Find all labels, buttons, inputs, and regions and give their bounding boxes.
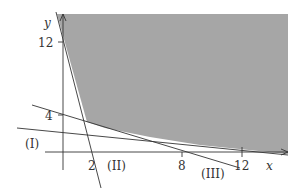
x-tick-label-8: 8 <box>178 159 186 173</box>
x-axis-label: x <box>266 159 273 173</box>
line-III-label: (III) <box>201 167 225 181</box>
line-II-label: (II) <box>107 159 126 173</box>
y-tick-label-4: 4 <box>45 109 53 123</box>
x-tick-label-12: 12 <box>234 159 249 173</box>
line-I-label: (I) <box>25 137 39 151</box>
y-tick-label-12: 12 <box>38 36 53 50</box>
diagram-canvas: y 12 4 2 8 12 x (I) (II) (III) <box>0 0 303 191</box>
x-tick-label-2: 2 <box>88 159 96 173</box>
y-axis-label: y <box>43 16 51 30</box>
shaded-feasible-region <box>57 14 288 154</box>
